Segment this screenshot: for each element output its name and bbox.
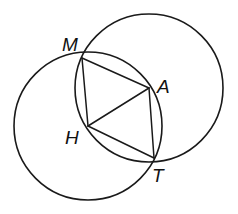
label-A: A (156, 76, 170, 97)
segment-HA (88, 88, 149, 126)
label-H: H (65, 127, 79, 148)
segment-AT (149, 88, 154, 158)
segment-HM (82, 58, 88, 126)
diagram-svg: M A H T (0, 0, 238, 214)
label-M: M (62, 34, 78, 55)
geometry-diagram: M A H T (0, 0, 238, 214)
label-T: T (152, 165, 165, 186)
